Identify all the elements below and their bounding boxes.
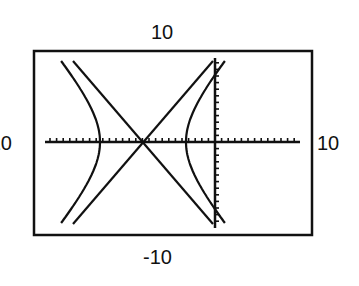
- graph-screen: [0, 0, 359, 286]
- x-axis: [45, 138, 300, 142]
